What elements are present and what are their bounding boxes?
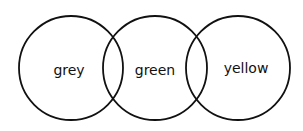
label-yellow: yellow	[224, 60, 269, 76]
label-green: green	[135, 62, 175, 78]
venn-diagram: grey green yellow	[0, 0, 303, 131]
label-grey: grey	[53, 62, 84, 78]
